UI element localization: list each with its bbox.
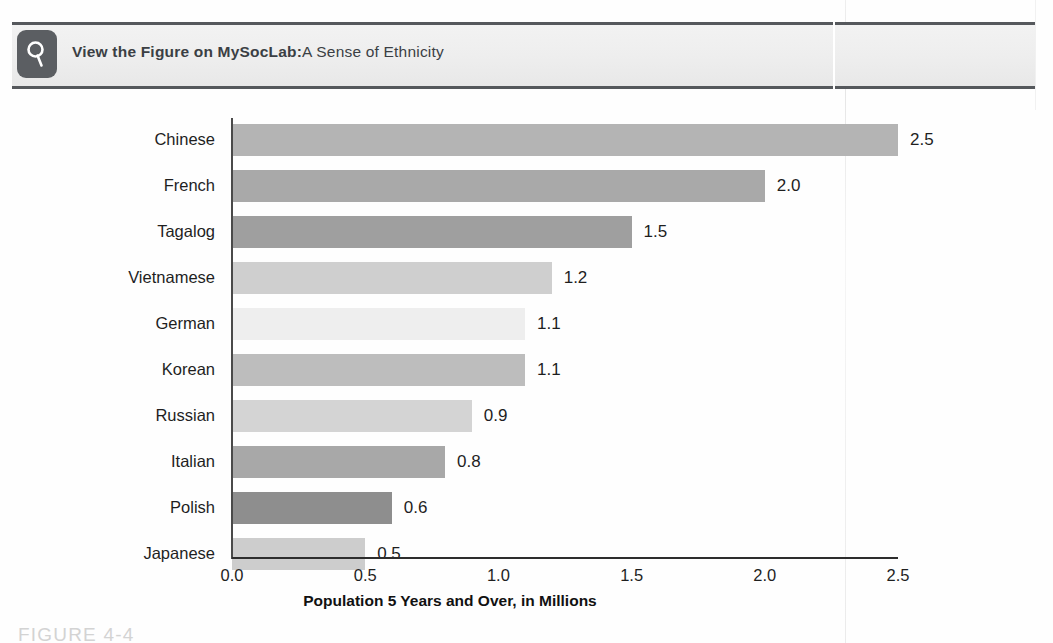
category-label: Italian [171,452,215,471]
bar [232,492,392,524]
category-label: German [155,314,215,333]
x-tick-label: 0.5 [354,566,377,585]
bar-chart: ChineseFrenchTagalogVietnameseGermanKore… [0,100,1053,600]
bar-value-label: 0.6 [404,498,428,518]
x-tick-label: 2.0 [753,566,776,585]
bar-value-label: 2.5 [910,130,934,150]
figure-caption: FIGURE 4-4 [18,624,135,643]
category-label: Tagalog [157,222,215,241]
category-label: Chinese [154,130,215,149]
bar [232,354,525,386]
bar-value-label: 1.5 [644,222,668,242]
figure-page: View the Figure on MySocLab:A Sense of E… [0,0,1053,643]
bar [232,124,898,156]
category-label: French [164,176,215,195]
bar-value-label: 0.5 [377,544,401,564]
bar [232,400,472,432]
bar-value-label: 0.8 [457,452,481,472]
y-axis-line [231,118,233,559]
category-label: Russian [155,406,215,425]
banner-title-bold: View the Figure on MySocLab: [72,43,302,60]
x-tick-label: 2.5 [887,566,910,585]
x-tick-label: 1.5 [620,566,643,585]
bar [232,216,632,248]
bar-value-label: 1.1 [537,314,561,334]
x-axis-title-wrap: Population 5 Years and Over, in Millions [200,592,700,610]
bar [232,262,552,294]
bar [232,308,525,340]
x-tick-label: 1.0 [487,566,510,585]
banner-divider [833,22,835,89]
bar-value-label: 1.1 [537,360,561,380]
bar [232,170,765,202]
x-axis-line [232,557,898,559]
magnifying-glass-icon [17,30,57,78]
banner-title: View the Figure on MySocLab:A Sense of E… [72,43,444,61]
bar [232,446,445,478]
bar [232,538,365,570]
category-label: Japanese [143,544,215,563]
x-tick-label: 0.0 [221,566,244,585]
bar-value-label: 0.9 [484,406,508,426]
page-seam-right [1035,0,1036,110]
category-label: Korean [162,360,215,379]
bar-value-label: 1.2 [564,268,588,288]
x-axis-title: Population 5 Years and Over, in Millions [303,592,596,609]
bar-value-label: 2.0 [777,176,801,196]
category-label: Vietnamese [128,268,215,287]
banner-title-regular: A Sense of Ethnicity [302,43,444,60]
category-label: Polish [170,498,215,517]
